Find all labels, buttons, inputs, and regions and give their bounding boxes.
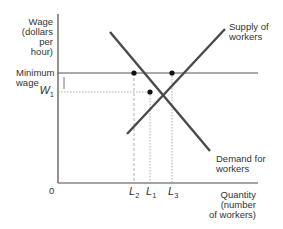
l2-label: L2 bbox=[129, 186, 139, 201]
l1-label-sub: 1 bbox=[152, 191, 156, 200]
supply-label-line: workers bbox=[229, 32, 269, 42]
w1-label-main: W bbox=[39, 84, 49, 96]
y-axis-label: Wage (dollars per hour) bbox=[10, 17, 53, 57]
w1-label-sub: 1 bbox=[50, 90, 54, 99]
l1-label: L1 bbox=[146, 186, 156, 201]
x-axis-label: Quantity (number of workers) bbox=[200, 190, 256, 220]
origin-label: 0 bbox=[49, 186, 54, 196]
point-l2 bbox=[131, 70, 136, 75]
demand-label-line: workers bbox=[216, 164, 266, 174]
l2-label-sub: 2 bbox=[135, 191, 139, 200]
l3-label: L3 bbox=[168, 186, 178, 201]
point-equilibrium bbox=[147, 89, 152, 94]
point-l3 bbox=[169, 70, 174, 75]
supply-curve bbox=[127, 29, 225, 134]
supply-label: Supply of workers bbox=[229, 22, 269, 42]
y-axis-label-line: hour) bbox=[10, 47, 53, 57]
demand-curve bbox=[110, 32, 210, 151]
w1-label: W1 bbox=[30, 85, 54, 100]
x-axis-label-line: of workers) bbox=[200, 210, 256, 220]
l3-label-sub: 3 bbox=[174, 191, 178, 200]
demand-label: Demand for workers bbox=[216, 154, 266, 174]
